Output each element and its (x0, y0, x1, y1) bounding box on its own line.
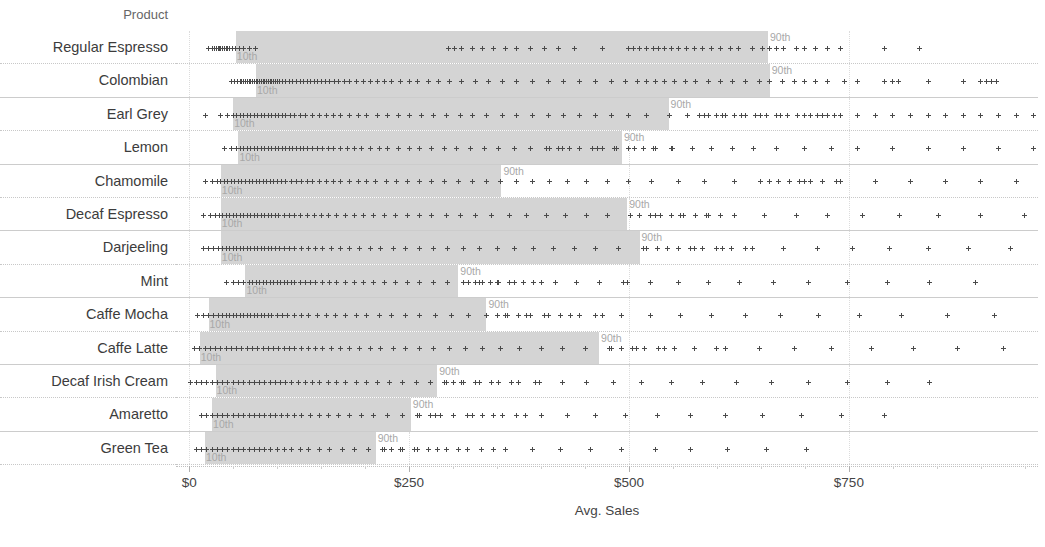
data-point-mark[interactable] (366, 447, 371, 452)
data-point-mark[interactable] (310, 179, 315, 184)
data-point-mark[interactable] (584, 179, 589, 184)
data-point-mark[interactable] (656, 46, 661, 51)
data-point-mark[interactable] (194, 380, 199, 385)
product-axis-label[interactable]: Decaf Irish Cream (0, 365, 176, 398)
data-point-mark[interactable] (496, 280, 501, 285)
data-point-mark[interactable] (225, 413, 230, 418)
data-point-mark[interactable] (692, 346, 697, 351)
data-point-mark[interactable] (669, 146, 674, 151)
data-point-mark[interactable] (336, 79, 341, 84)
data-point-mark[interactable] (528, 146, 533, 151)
data-point-mark[interactable] (305, 179, 310, 184)
data-point-mark[interactable] (340, 447, 345, 452)
data-point-mark[interactable] (829, 146, 834, 151)
data-point-mark[interactable] (269, 313, 274, 318)
data-point-mark[interactable] (653, 213, 658, 218)
data-point-mark[interactable] (700, 380, 705, 385)
data-point-mark[interactable] (347, 179, 352, 184)
data-point-mark[interactable] (542, 313, 547, 318)
data-point-mark[interactable] (306, 313, 311, 318)
data-point-mark[interactable] (619, 346, 624, 351)
data-point-mark[interactable] (584, 213, 589, 218)
data-point-mark[interactable] (326, 413, 331, 418)
data-point-mark[interactable] (1014, 179, 1019, 184)
data-point-mark[interactable] (767, 179, 772, 184)
data-point-mark[interactable] (700, 246, 705, 251)
data-point-mark[interactable] (347, 346, 352, 351)
data-point-mark[interactable] (317, 447, 322, 452)
data-point-mark[interactable] (662, 346, 667, 351)
data-point-mark[interactable] (743, 113, 748, 118)
data-point-mark[interactable] (310, 146, 315, 151)
data-point-mark[interactable] (287, 346, 292, 351)
data-point-mark[interactable] (524, 213, 529, 218)
data-point-mark[interactable] (479, 447, 484, 452)
data-point-mark[interactable] (720, 246, 725, 251)
data-point-mark[interactable] (584, 380, 589, 385)
data-point-mark[interactable] (368, 146, 373, 151)
data-point-mark[interactable] (255, 346, 260, 351)
data-point-mark[interactable] (496, 146, 501, 151)
data-point-mark[interactable] (282, 346, 287, 351)
data-point-mark[interactable] (690, 146, 695, 151)
data-point-mark[interactable] (331, 113, 336, 118)
data-point-mark[interactable] (644, 46, 649, 51)
data-point-mark[interactable] (785, 113, 790, 118)
data-point-mark[interactable] (377, 313, 382, 318)
data-point-mark[interactable] (813, 79, 818, 84)
data-point-mark[interactable] (732, 179, 737, 184)
data-point-mark[interactable] (461, 280, 466, 285)
data-point-mark[interactable] (706, 113, 711, 118)
data-point-mark[interactable] (590, 146, 595, 151)
data-point-mark[interactable] (693, 213, 698, 218)
data-point-mark[interactable] (829, 346, 834, 351)
data-point-mark[interactable] (271, 346, 276, 351)
data-point-mark[interactable] (693, 79, 698, 84)
data-point-mark[interactable] (750, 46, 755, 51)
data-point-mark[interactable] (262, 380, 267, 385)
data-point-mark[interactable] (484, 313, 489, 318)
data-point-mark[interactable] (546, 79, 551, 84)
data-point-mark[interactable] (583, 346, 588, 351)
data-point-mark[interactable] (546, 113, 551, 118)
data-point-mark[interactable] (523, 413, 528, 418)
data-point-mark[interactable] (665, 246, 670, 251)
data-point-mark[interactable] (873, 179, 878, 184)
data-point-mark[interactable] (331, 179, 336, 184)
data-point-mark[interactable] (276, 213, 281, 218)
data-point-mark[interactable] (261, 346, 266, 351)
data-point-mark[interactable] (352, 146, 357, 151)
data-point-mark[interactable] (593, 246, 598, 251)
data-point-mark[interactable] (556, 146, 561, 151)
data-point-mark[interactable] (667, 113, 672, 118)
data-point-mark[interactable] (403, 246, 408, 251)
x-axis-title[interactable]: Avg. Sales (176, 503, 1038, 518)
data-point-mark[interactable] (729, 246, 734, 251)
data-point-mark[interactable] (644, 113, 649, 118)
data-point-mark[interactable] (514, 46, 519, 51)
data-point-mark[interactable] (225, 113, 230, 118)
data-point-mark[interactable] (273, 380, 278, 385)
data-point-mark[interactable] (210, 413, 215, 418)
data-point-mark[interactable] (593, 113, 598, 118)
data-point-mark[interactable] (973, 280, 978, 285)
data-point-mark[interactable] (832, 113, 837, 118)
data-point-mark[interactable] (806, 380, 811, 385)
data-point-mark[interactable] (199, 380, 204, 385)
data-point-mark[interactable] (885, 280, 890, 285)
data-point-mark[interactable] (565, 179, 570, 184)
data-point-mark[interactable] (530, 79, 535, 84)
data-point-mark[interactable] (428, 413, 433, 418)
data-point-mark[interactable] (405, 280, 410, 285)
data-point-mark[interactable] (495, 313, 500, 318)
data-point-mark[interactable] (292, 313, 297, 318)
data-point-mark[interactable] (445, 280, 450, 285)
data-point-mark[interactable] (597, 280, 602, 285)
data-point-mark[interactable] (896, 79, 901, 84)
data-point-mark[interactable] (364, 113, 369, 118)
data-point-mark[interactable] (802, 46, 807, 51)
data-point-mark[interactable] (359, 146, 364, 151)
data-point-mark[interactable] (619, 447, 624, 452)
data-point-mark[interactable] (530, 447, 535, 452)
data-point-mark[interactable] (470, 179, 475, 184)
